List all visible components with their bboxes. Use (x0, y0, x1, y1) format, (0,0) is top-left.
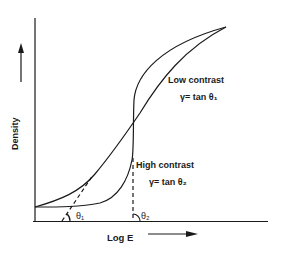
high-contrast-gamma: γ= tan θ₂ (149, 177, 187, 187)
theta2-arc (133, 214, 140, 221)
theta1-arc (67, 214, 70, 221)
x-axis-label: Log E (107, 232, 133, 243)
theta1-label: θ₁ (76, 211, 84, 221)
low-contrast-label: Low contrast (168, 75, 224, 85)
loge-arrowhead-icon (186, 231, 198, 237)
high-contrast-label: High contrast (136, 160, 194, 170)
y-axis-label: Density (10, 117, 20, 150)
density-arrowhead-icon (18, 43, 24, 53)
low-contrast-curve (35, 27, 226, 207)
high-contrast-curve (35, 27, 226, 207)
low-contrast-gamma: γ= tan θ₁ (180, 92, 217, 102)
theta2-label: θ₂ (141, 211, 150, 221)
